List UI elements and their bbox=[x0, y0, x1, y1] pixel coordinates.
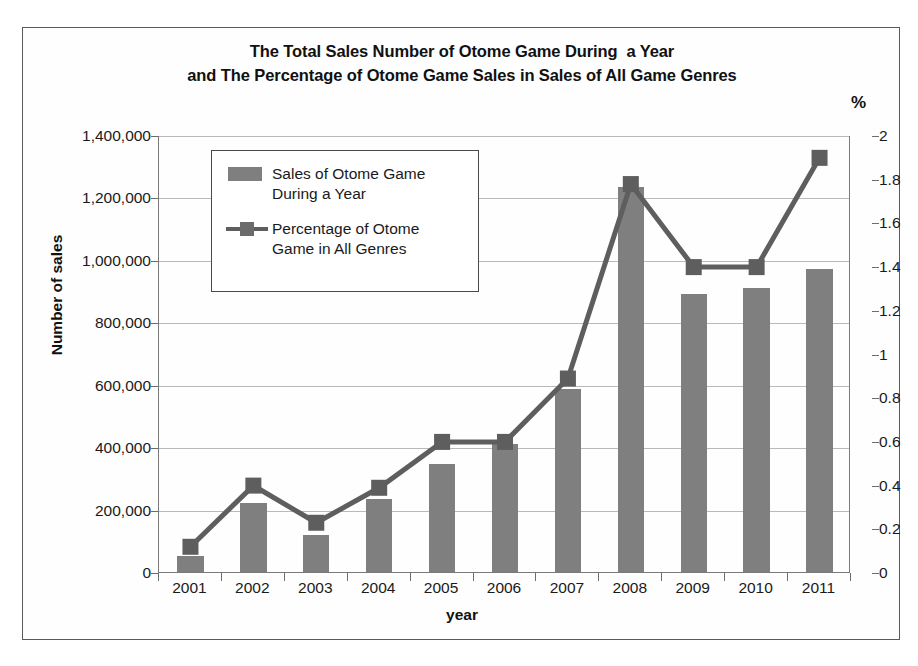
x-axis-tick-label: 2011 bbox=[802, 579, 835, 597]
line-marker-2003 bbox=[308, 515, 324, 531]
y-axis-left-tick bbox=[151, 323, 158, 324]
y-axis-right-tick-label: 0.6 bbox=[879, 433, 918, 451]
chart-figure: The Total Sales Number of Otome Game Dur… bbox=[22, 27, 900, 640]
y-axis-right-tick-label: 0.8 bbox=[879, 389, 918, 407]
bar-2004 bbox=[366, 499, 392, 572]
x-axis-tick-label: 2005 bbox=[424, 579, 458, 597]
y-axis-right-tick-label: 1.4 bbox=[879, 258, 918, 276]
x-axis-tick-label: 2002 bbox=[235, 579, 269, 597]
x-axis-tick-label: 2007 bbox=[550, 579, 584, 597]
y-axis-right-tick-label: 1.8 bbox=[879, 171, 918, 189]
x-axis-tick-label: 2008 bbox=[613, 579, 647, 597]
legend-label-bar-line-1: Sales of Otome Game bbox=[272, 165, 425, 182]
secondary-axis-unit-label: % bbox=[851, 93, 866, 113]
gridline bbox=[159, 136, 849, 137]
y-axis-left-tick bbox=[151, 573, 158, 574]
y-axis-right-tick-label: 0.4 bbox=[879, 477, 918, 495]
x-axis-tick-label: 2004 bbox=[361, 579, 395, 597]
y-axis-right-tick-label: 2 bbox=[879, 127, 918, 145]
bar-2007 bbox=[555, 389, 581, 572]
x-axis-tick-label: 2006 bbox=[487, 579, 521, 597]
y-axis-right-tick bbox=[872, 311, 879, 312]
line-marker-2007 bbox=[560, 371, 576, 387]
y-axis-left-tick bbox=[151, 386, 158, 387]
y-axis-right-tick bbox=[872, 442, 879, 443]
bar-2002 bbox=[240, 503, 266, 572]
chart-legend: Sales of Otome Game During a Year Percen… bbox=[211, 150, 479, 292]
bar-2010 bbox=[743, 288, 769, 572]
y-axis-right-ticks bbox=[850, 136, 880, 573]
y-axis-right-tick bbox=[872, 223, 879, 224]
y-axis-left-tick bbox=[151, 448, 158, 449]
line-marker-2011 bbox=[812, 150, 828, 166]
x-axis-tick-label: 2009 bbox=[675, 579, 709, 597]
x-axis-tick bbox=[850, 573, 851, 581]
y-axis-right-tick-label: 1.6 bbox=[879, 214, 918, 232]
y-axis-left-tick bbox=[151, 136, 158, 137]
x-axis-tick-label: 2003 bbox=[298, 579, 332, 597]
chart-title-line-2: and The Percentage of Otome Game Sales i… bbox=[23, 64, 901, 88]
y-axis-right-tick bbox=[872, 486, 879, 487]
line-marker-2001 bbox=[182, 539, 198, 555]
y-axis-right-tick-label: 1 bbox=[879, 346, 918, 364]
chart-title-line-1: The Total Sales Number of Otome Game Dur… bbox=[23, 40, 901, 64]
y-axis-right-tick-label: 1.2 bbox=[879, 302, 918, 320]
y-axis-left-tick bbox=[151, 198, 158, 199]
y-axis-right-tick-label: 0.2 bbox=[879, 520, 918, 538]
bar-swatch-icon bbox=[226, 164, 272, 184]
bar-2006 bbox=[492, 444, 518, 572]
chart-title: The Total Sales Number of Otome Game Dur… bbox=[23, 40, 901, 88]
bar-2003 bbox=[303, 535, 329, 572]
line-marker-2004 bbox=[371, 480, 387, 496]
bar-2009 bbox=[681, 294, 707, 572]
y-axis-right-tick bbox=[872, 136, 879, 137]
legend-label-bar-line-2: During a Year bbox=[272, 184, 425, 204]
legend-label-line-line-2: Game in All Genres bbox=[272, 239, 419, 259]
bar-2008 bbox=[618, 187, 644, 572]
y-axis-left-ticks bbox=[23, 136, 163, 573]
y-axis-left-tick bbox=[151, 511, 158, 512]
y-axis-right-labels: 21.81.61.41.210.80.60.40.20 bbox=[879, 136, 918, 573]
x-axis-title: year bbox=[23, 606, 901, 624]
legend-entry-bar-series: Sales of Otome Game During a Year bbox=[226, 164, 468, 205]
legend-label-bar-series: Sales of Otome Game During a Year bbox=[272, 164, 425, 205]
bar-2011 bbox=[806, 269, 832, 572]
line-marker-2002 bbox=[245, 478, 261, 494]
y-axis-right-tick bbox=[872, 180, 879, 181]
bar-2001 bbox=[177, 556, 203, 572]
legend-entry-line-series: Percentage of Otome Game in All Genres bbox=[226, 219, 468, 260]
y-axis-right-tick bbox=[872, 355, 879, 356]
y-axis-right-tick bbox=[872, 529, 879, 530]
x-axis-tick-label: 2010 bbox=[738, 579, 772, 597]
x-axis-tick-label: 2001 bbox=[172, 579, 206, 597]
y-axis-right-tick-label: 0 bbox=[879, 564, 918, 582]
x-axis-labels: 2001200220032004200520062007200820092010… bbox=[158, 579, 850, 605]
y-axis-right-tick bbox=[872, 267, 879, 268]
y-axis-left-tick bbox=[151, 261, 158, 262]
y-axis-right-tick bbox=[872, 398, 879, 399]
y-axis-right-tick bbox=[872, 573, 879, 574]
bar-2005 bbox=[429, 464, 455, 572]
line-marker-swatch-icon bbox=[226, 219, 272, 239]
legend-label-line-series: Percentage of Otome Game in All Genres bbox=[272, 219, 419, 260]
legend-label-line-line-1: Percentage of Otome bbox=[272, 220, 419, 237]
